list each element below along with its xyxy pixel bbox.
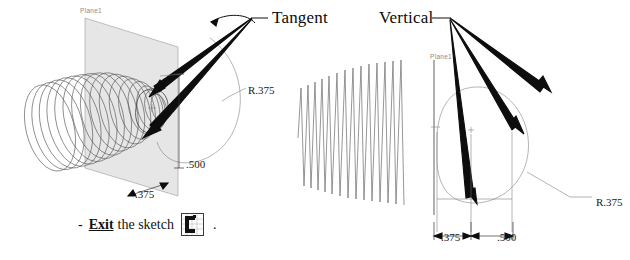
plane-label-right: Plane1: [430, 53, 452, 60]
plane-label-left: Plane1: [80, 7, 102, 14]
instruction-text: the sketch: [118, 217, 174, 233]
exit-keyword: Exit: [89, 217, 114, 233]
vertical-arrows: [450, 18, 551, 204]
instruction-period: .: [213, 217, 217, 233]
dim-width-right: .375: [441, 231, 460, 243]
dim-height-left: .500: [186, 158, 205, 170]
figure-root: Tangent Vertical Plane1 Plane1 R.375 .50…: [0, 0, 630, 260]
dim-width-left: .375: [135, 188, 154, 200]
dim-height-right: .500: [497, 231, 516, 243]
sketch-profile-right: [437, 87, 529, 203]
dim-radius-left: R.375: [248, 84, 275, 96]
tangent-callout-label: Tangent: [272, 8, 328, 28]
instruction-line: - Exit the sketch .: [78, 213, 216, 236]
helix-side-wave: [298, 60, 404, 205]
instruction-dash: -: [78, 217, 83, 233]
vertical-callout-label: Vertical: [379, 8, 433, 28]
exit-sketch-icon[interactable]: [181, 213, 204, 236]
dim-radius-right: R.375: [596, 196, 623, 208]
r375-leader-right: [527, 172, 592, 197]
